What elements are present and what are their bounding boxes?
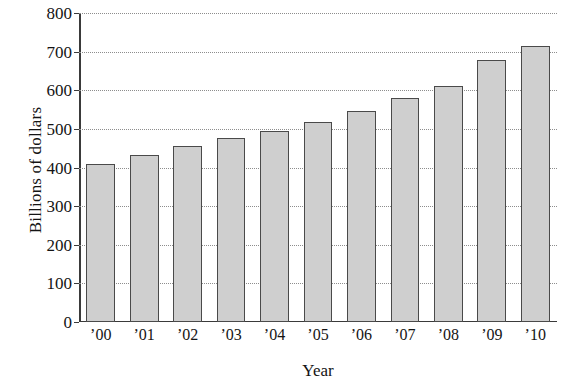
bars — [79, 13, 557, 322]
y-tick-label: 400 — [47, 159, 73, 176]
x-tick-label: ’09 — [481, 327, 502, 343]
x-tick-label: ’01 — [134, 327, 155, 343]
y-tick-mark — [74, 322, 79, 323]
y-tick-label: 500 — [47, 120, 73, 137]
plot-area: 0100200300400500600700800 ’00’01’02’03’0… — [79, 13, 557, 322]
bar — [86, 164, 115, 322]
bar — [173, 146, 202, 322]
bar — [217, 138, 246, 322]
bar — [260, 131, 289, 322]
bar — [130, 155, 159, 322]
bar-chart: Billions of dollars 01002003004005006007… — [0, 0, 574, 383]
x-axis-title: Year — [79, 361, 557, 381]
y-tick-label: 300 — [47, 198, 73, 215]
x-tick-label: ’03 — [220, 327, 241, 343]
x-tick-label: ’05 — [307, 327, 328, 343]
bar — [434, 86, 463, 322]
bar — [477, 60, 506, 322]
x-tick-label: ’07 — [394, 327, 415, 343]
bar — [521, 46, 550, 322]
x-tick-label: ’04 — [264, 327, 285, 343]
y-axis-title: Billions of dollars — [26, 40, 46, 300]
x-tick-label: ’08 — [438, 327, 459, 343]
bar — [391, 98, 420, 322]
x-tick-label: ’10 — [525, 327, 546, 343]
x-tick-label: ’00 — [90, 327, 111, 343]
y-tick-label: 800 — [47, 5, 73, 22]
bar — [304, 122, 333, 322]
bar — [347, 111, 376, 322]
y-tick-label: 700 — [47, 43, 73, 60]
x-tick-label: ’06 — [351, 327, 372, 343]
y-tick-label: 600 — [47, 82, 73, 99]
y-tick-label: 100 — [47, 275, 73, 292]
x-tick-label: ’02 — [177, 327, 198, 343]
y-tick-label: 0 — [64, 314, 73, 331]
y-tick-label: 200 — [47, 236, 73, 253]
